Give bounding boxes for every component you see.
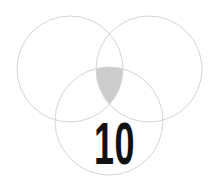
number-label: 10 xyxy=(94,111,124,177)
